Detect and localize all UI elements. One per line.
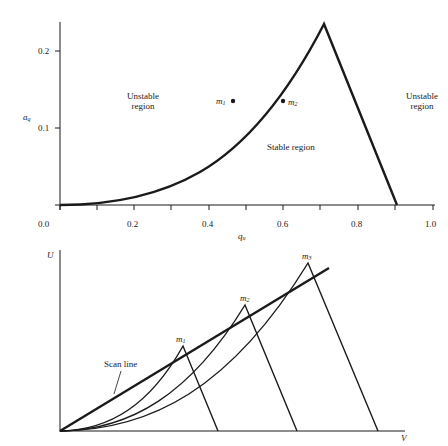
x-axis-label-qu: qu	[238, 231, 246, 243]
x-tick-1.0: 1.0	[425, 219, 436, 229]
unstable-region-left-label: Unstable region	[123, 91, 163, 111]
unstable-region-right-label: Unstable region	[402, 91, 442, 111]
x-tick-0.4: 0.4	[202, 219, 213, 229]
stability-boundary-curve	[60, 24, 397, 205]
y-tick-0.2: 0.2	[38, 46, 49, 56]
x-axis-label-V: V	[401, 433, 407, 443]
point-m2-label: m2	[288, 97, 298, 109]
triangle-m2	[60, 305, 297, 431]
x-tick-0.0: 0.0	[38, 219, 49, 229]
peak-m2-label: m2	[240, 293, 250, 305]
peak-m3-label: m3	[302, 251, 312, 263]
scan-line-label: Scan line	[104, 359, 137, 369]
point-m1-label: m1	[216, 96, 226, 108]
x-tick-0.2: 0.2	[127, 219, 138, 229]
triangle-m3	[60, 263, 378, 431]
scan-line-leader	[114, 371, 121, 394]
bottom-plot-axes	[60, 250, 405, 432]
x-tick-0.6: 0.6	[277, 219, 288, 229]
y-axis-label-aq: aq	[23, 112, 31, 124]
peak-m1-label: m1	[176, 334, 186, 346]
top-plot-axes	[55, 22, 435, 210]
stable-region-label: Stable region	[267, 142, 315, 152]
point-m1-marker	[231, 99, 235, 103]
y-axis-label-U: U	[47, 250, 54, 260]
y-tick-0.1: 0.1	[38, 123, 49, 133]
diagram-canvas	[0, 0, 448, 446]
x-tick-0.8: 0.8	[351, 219, 362, 229]
point-m2-marker	[281, 99, 285, 103]
